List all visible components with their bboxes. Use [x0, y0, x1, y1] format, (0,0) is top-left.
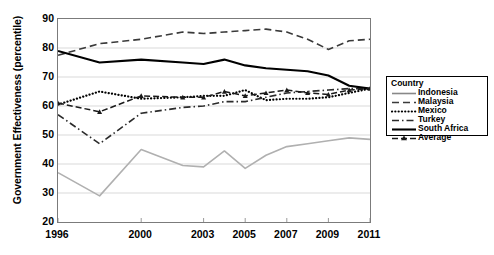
series-marker-average — [139, 93, 144, 98]
x-tick-2011: 2011 — [349, 228, 389, 240]
y-tick-50: 50 — [28, 128, 54, 140]
legend-swatch-icon — [391, 116, 417, 124]
series-line-indonesia — [58, 138, 370, 196]
x-tick-1996: 1996 — [37, 228, 77, 240]
chart-root: Government Effectiveness (percentile) 90… — [0, 0, 494, 255]
y-tick-20: 20 — [28, 215, 54, 227]
legend-swatch-icon — [391, 98, 417, 106]
y-tick-70: 70 — [28, 70, 54, 82]
legend-swatch-icon — [391, 107, 417, 115]
legend-swatch-icon — [391, 89, 417, 97]
x-tick-2000: 2000 — [120, 228, 160, 240]
y-tick-40: 40 — [28, 157, 54, 169]
legend-swatch-icon — [391, 125, 417, 133]
legend: Country IndonesiaMalaysiaMexicoTurkeySou… — [386, 76, 488, 136]
legend-label: Average — [417, 133, 451, 142]
plot-area — [57, 18, 371, 223]
series-line-south-africa — [58, 51, 370, 89]
y-tick-90: 90 — [28, 12, 54, 24]
x-tick-2009: 2009 — [307, 228, 347, 240]
y-axis-title: Government Effectiveness (percentile) — [11, 5, 23, 215]
series-line-malaysia — [58, 29, 370, 55]
x-tick-2005: 2005 — [224, 228, 264, 240]
y-tick-60: 60 — [28, 99, 54, 111]
legend-swatch-icon — [391, 134, 417, 142]
y-tick-80: 80 — [28, 41, 54, 53]
x-tick-2007: 2007 — [266, 228, 306, 240]
y-tick-30: 30 — [28, 186, 54, 198]
legend-items: IndonesiaMalaysiaMexicoTurkeySouth Afric… — [391, 88, 487, 142]
legend-item-average[interactable]: Average — [391, 133, 487, 142]
x-tick-2003: 2003 — [183, 228, 223, 240]
